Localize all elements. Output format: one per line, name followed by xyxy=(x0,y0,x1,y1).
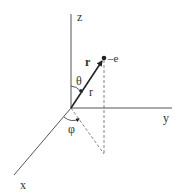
x-axis xyxy=(14,108,71,175)
z-axis-label: z xyxy=(77,10,82,24)
x-axis-label: x xyxy=(20,178,26,192)
vector-length-label: r xyxy=(89,85,93,99)
point-label: –e xyxy=(107,52,119,64)
theta-label: θ xyxy=(76,74,82,88)
phi-label: φ xyxy=(68,122,75,136)
spherical-coordinates-diagram: z y x –e r r θ φ xyxy=(0,0,181,194)
y-axis-label: y xyxy=(163,111,169,125)
xy-projection-line xyxy=(71,108,104,154)
vector-bold-label: r xyxy=(85,55,91,69)
phi-arc xyxy=(64,117,79,121)
electron-point xyxy=(102,56,107,61)
